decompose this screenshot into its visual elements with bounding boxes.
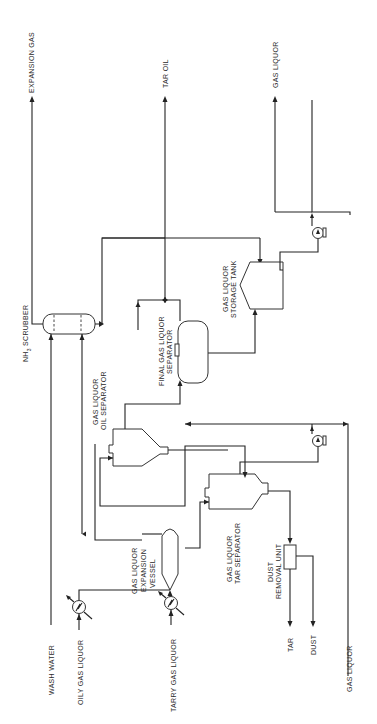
stream-gas-liquor-out: GAS LIQUOR (272, 41, 350, 215)
stream-tar-oil: TAR OIL (162, 59, 169, 300)
wash-water-label: WASH WATER (48, 645, 55, 695)
gas-liquor-in-label: GAS LIQUOR (346, 645, 354, 692)
storage-tank-label-1: GAS LIQUOR (222, 265, 230, 312)
oily-gas-liquor-label: OILY GAS LIQUOR (77, 640, 85, 705)
stream-expansion-gas: EXPANSION GAS (28, 32, 35, 318)
heat-exchanger-tarry (158, 591, 184, 625)
heat-exchanger-oily (66, 590, 170, 630)
pump-tar-separator-loop (185, 422, 348, 677)
tar-separator-label-2: TAR SEPARATOR (234, 523, 241, 584)
dust-removal-unit: DUST REMOVAL UNIT (267, 543, 316, 627)
oil-separator-label-2: OIL SEPARATOR (100, 371, 107, 430)
gas-liquor-storage-tank: GAS LIQUOR STORAGE TANK (222, 260, 283, 318)
pump-storage-discharge (280, 213, 326, 262)
tar-separator-label-1: GAS LIQUOR (226, 535, 234, 582)
dust-removal-label-1: DUST (267, 561, 274, 582)
tarry-gas-liquor-label: TARRY GAS LIQUOR (170, 639, 178, 712)
storage-tank-label-2: STORAGE TANK (230, 260, 237, 318)
dust-removal-label-2: REMOVAL UNIT (275, 543, 282, 599)
gas-liquor-out-label: GAS LIQUOR (272, 41, 280, 88)
process-flow-diagram: EXPANSION GAS TAR OIL GAS LIQUOR NH3 SCR… (0, 0, 377, 724)
dust-label: DUST (310, 634, 317, 655)
oil-separator-label-1: GAS LIQUOR (92, 378, 100, 425)
final-separator-label-1: FINAL GAS LIQUOR (158, 316, 166, 386)
tar-label: TAR (287, 638, 294, 652)
expansion-vessel-label-2: EXPANSION (140, 549, 147, 592)
expansion-gas-label: EXPANSION GAS (28, 32, 35, 93)
oil-sep-to-final-sep-line (125, 383, 180, 429)
tar-oil-label: TAR OIL (162, 59, 169, 88)
nh3-scrubber-label: NH3 SCRUBBER (22, 305, 32, 362)
final-gas-liquor-separator: FINAL GAS LIQUOR SEPARATOR (136, 297, 209, 386)
expansion-vessel-label-1: GAS LIQUOR (131, 547, 139, 594)
final-separator-label-2: SEPARATOR (166, 329, 173, 374)
expansion-vessel-label-3: VESSEL (149, 559, 156, 588)
